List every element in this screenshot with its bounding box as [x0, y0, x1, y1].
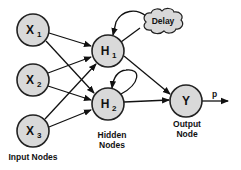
output-p-label: p — [212, 89, 217, 99]
caption-hidden-line1: Hidden — [98, 130, 127, 140]
edge-x3-h2 — [49, 110, 91, 127]
delay-cloud: Delay — [144, 8, 182, 33]
node-y: Y — [170, 85, 202, 117]
node-h1-sub: 1 — [112, 51, 117, 60]
rnn-diagram: Delay X 1 X 2 X 3 H 1 H 2 Y p Input Node… — [0, 0, 241, 170]
node-x1: X 1 — [17, 14, 49, 46]
node-h2: H 2 — [92, 88, 124, 120]
node-x2-label: X — [26, 73, 34, 87]
edges — [45, 11, 228, 127]
node-h1: H 1 — [92, 35, 124, 67]
edge-x2-h1 — [48, 57, 91, 73]
node-x3-label: X — [26, 124, 34, 138]
edge-h1-delay — [121, 28, 140, 42]
edge-h1-y — [124, 56, 170, 94]
caption-hidden-line2: Nodes — [99, 140, 125, 150]
node-x1-label: X — [26, 23, 34, 37]
edge-h2-y — [124, 100, 169, 102]
delay-label: Delay — [152, 16, 175, 26]
node-x3-sub: 3 — [37, 131, 42, 140]
node-y-label: Y — [182, 94, 190, 108]
node-h2-sub: 2 — [112, 104, 117, 113]
caption-input-nodes: Input Nodes — [8, 152, 57, 162]
caption-output-line2: Node — [176, 129, 198, 139]
edge-x1-h1 — [49, 33, 91, 46]
edge-delay-h1 — [113, 11, 146, 35]
node-x2: X 2 — [17, 64, 49, 96]
node-x3: X 3 — [17, 115, 49, 147]
node-h1-label: H — [101, 44, 110, 58]
node-x1-sub: 1 — [37, 30, 42, 39]
caption-output-line1: Output — [173, 119, 201, 129]
node-x2-sub: 2 — [37, 80, 42, 89]
edge-x1-h2 — [46, 41, 94, 93]
node-h2-label: H — [101, 97, 110, 111]
